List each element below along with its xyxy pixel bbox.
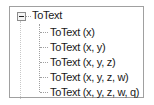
- tree-node-totext[interactable]: ToText: [10, 7, 143, 23]
- tree-node-label: ToText: [32, 9, 62, 22]
- tree-view[interactable]: ToText ToText (x) ToText (x, y) ToText (…: [9, 6, 144, 98]
- tree-connector: [40, 62, 48, 63]
- tree-node-child[interactable]: ToText (x, y, z, w, q): [10, 84, 143, 99]
- tree-node-child[interactable]: ToText (x, y, z): [10, 54, 143, 69]
- minus-icon: [19, 16, 24, 17]
- tree-node-child[interactable]: ToText (x, y, z, w): [10, 69, 143, 84]
- collapse-icon[interactable]: [17, 12, 26, 21]
- tree-connector: [40, 77, 48, 78]
- tree-node-child[interactable]: ToText (x, y): [10, 39, 143, 54]
- tree-node-label: ToText (x, y, z, w): [50, 71, 128, 84]
- tree-connector: [26, 16, 31, 17]
- tree-node-label: ToText (x, y): [50, 41, 105, 54]
- tree-node-label: ToText (x): [50, 26, 95, 39]
- tree-connector: [40, 92, 48, 93]
- tree-node-label: ToText (x, y, z): [50, 56, 115, 69]
- tree-node-label: ToText (x, y, z, w, q): [50, 86, 139, 99]
- tree-connector: [40, 47, 48, 48]
- tree-node-child[interactable]: ToText (x): [10, 24, 143, 39]
- tree-connector: [40, 32, 48, 33]
